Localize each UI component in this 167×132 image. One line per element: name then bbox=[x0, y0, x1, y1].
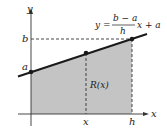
equation-lhs: y = bbox=[94, 20, 111, 30]
trapezoid-diagram: y x b a x h R(x) y = b − a h x + a bbox=[0, 0, 167, 132]
equation-denominator: h bbox=[120, 26, 126, 36]
y-axis-label: y bbox=[26, 3, 33, 14]
h-tick-label: h bbox=[129, 116, 135, 127]
x-tick-label: x bbox=[83, 116, 89, 127]
x-axis-label: x bbox=[151, 108, 157, 119]
region-label: R(x) bbox=[89, 80, 109, 90]
a-tick-label: a bbox=[22, 61, 28, 72]
shaded-region bbox=[31, 39, 132, 114]
point-a bbox=[29, 70, 34, 75]
point-x bbox=[84, 51, 89, 56]
equation-rhs: x + a bbox=[137, 20, 161, 30]
b-tick-label: b bbox=[22, 33, 28, 44]
x-axis-arrow-icon bbox=[143, 112, 149, 116]
point-h bbox=[130, 37, 135, 42]
equation-numerator: b − a bbox=[113, 13, 137, 23]
